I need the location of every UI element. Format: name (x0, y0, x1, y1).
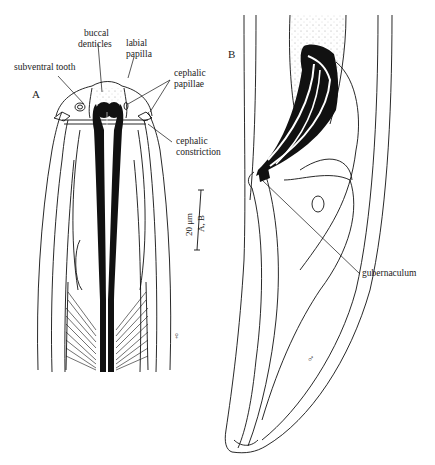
label-buccal-denticles: buccal denticles (78, 28, 112, 50)
panel-b-drawing (225, 15, 392, 453)
panel-a-drawing (38, 82, 171, 373)
nematode-figure: A B buccal denticles labial papilla subv… (0, 0, 435, 465)
label-cephalic-papillae: cephalic papillae (174, 68, 206, 90)
label-cephalic-constriction: cephalic constriction (176, 136, 221, 158)
label-labial-papilla: labial papilla (126, 38, 152, 60)
scale-bar-panels: A, B (196, 215, 206, 232)
panel-a-label: A (32, 88, 40, 100)
male-symbol: ♂ (307, 353, 315, 364)
panel-b-label: B (228, 48, 235, 60)
female-symbol: ♀ (173, 330, 181, 341)
scale-bar-value: 20 μm (184, 213, 194, 236)
label-gubernaculum: gubernaculum (362, 268, 416, 279)
label-subventral-tooth: subventral tooth (14, 62, 75, 73)
